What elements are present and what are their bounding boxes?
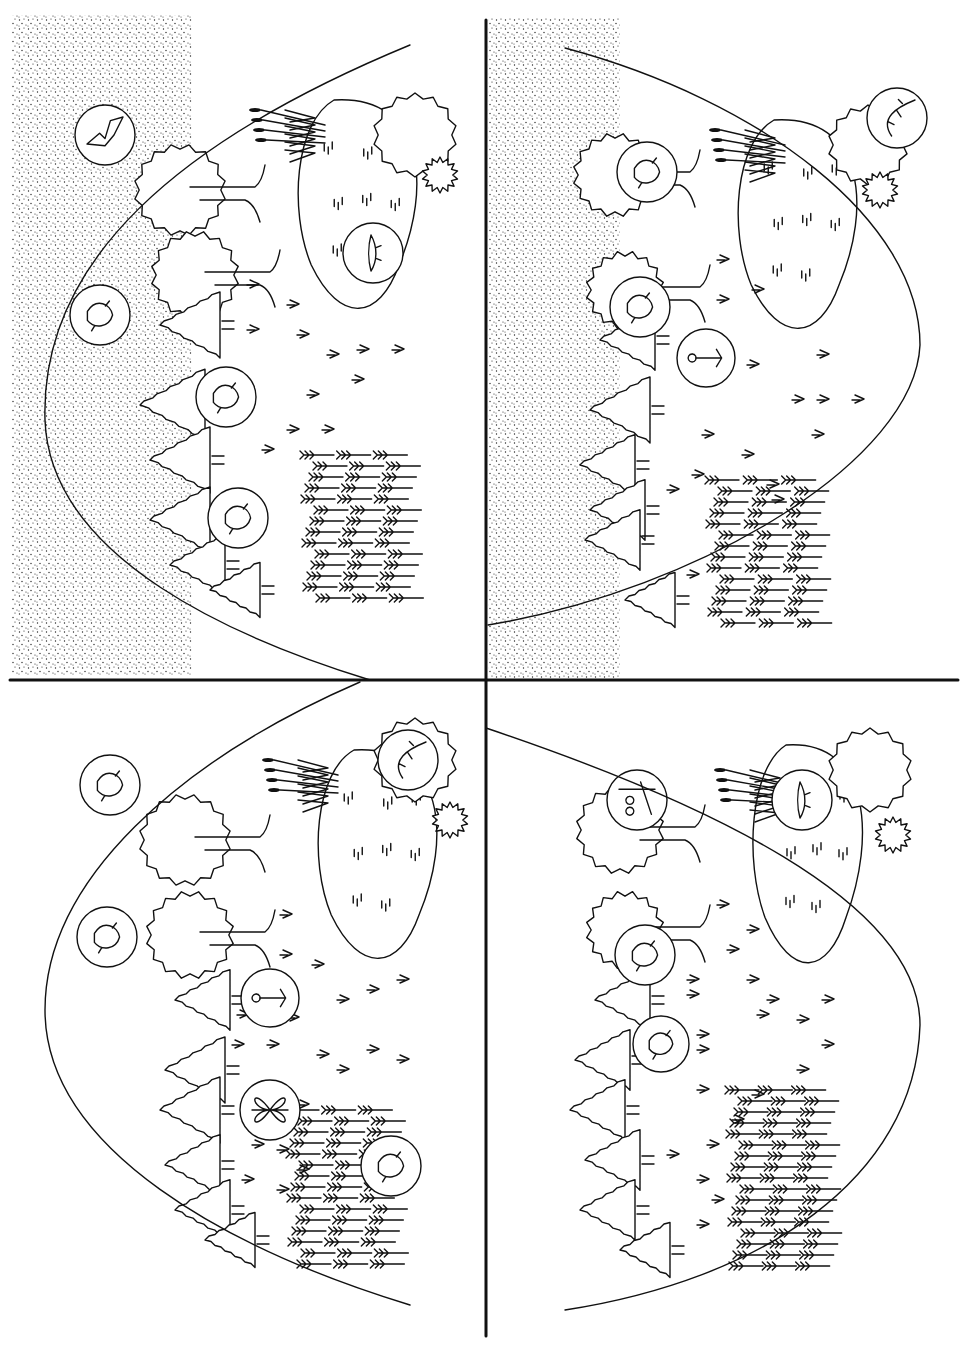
- owl-icon: [607, 770, 667, 830]
- bird-soaring-icon: [77, 907, 137, 967]
- ground-mark: [397, 1055, 409, 1063]
- ground-mark: [367, 985, 379, 993]
- ground-mark: [287, 300, 299, 308]
- bird-eagle-icon: [70, 285, 130, 345]
- ground-mark: [307, 390, 319, 398]
- ground-mark: [687, 990, 699, 998]
- ground-mark: [817, 350, 829, 358]
- ground-mark: [247, 280, 259, 288]
- fish-icon: [343, 223, 403, 283]
- ground-mark: [337, 995, 349, 1003]
- ground-mark: [747, 360, 759, 368]
- bush: [433, 802, 468, 838]
- ground-mark: [717, 295, 729, 303]
- bat-icon: [75, 105, 135, 165]
- ground-mark: [297, 330, 309, 338]
- ground-mark: [322, 425, 334, 433]
- ground-mark: [717, 900, 729, 908]
- ground-mark: [792, 395, 804, 403]
- ground-mark: [822, 1040, 834, 1048]
- deciduous-tree: [140, 795, 270, 885]
- ground-mark: [367, 1045, 379, 1053]
- ground-mark: [757, 1010, 769, 1018]
- butterfly-icon: [240, 1080, 300, 1140]
- bush: [876, 817, 911, 853]
- ground-mark: [280, 910, 292, 918]
- ground-mark: [697, 1220, 709, 1228]
- flower-icon: [677, 329, 735, 387]
- ground-mark: [702, 430, 714, 438]
- ground-mark: [767, 480, 779, 488]
- reeds: [249, 108, 325, 162]
- rodent-icon: [208, 488, 268, 548]
- ground-mark: [822, 995, 834, 1003]
- ground-mark: [667, 1150, 679, 1158]
- ground-mark: [812, 430, 824, 438]
- grass-field: [300, 451, 423, 602]
- frog-on-branch-icon: [610, 277, 670, 337]
- ground-mark: [797, 1015, 809, 1023]
- ground-mark: [667, 485, 679, 493]
- ecology-diagram: [0, 0, 968, 1351]
- ground-mark: [697, 1085, 709, 1093]
- ground-mark: [817, 395, 829, 403]
- bird-perched-icon: [615, 925, 675, 985]
- ground-mark: [767, 995, 779, 1003]
- squirrel-icon: [196, 367, 256, 427]
- ground-mark: [392, 345, 404, 353]
- conifer-tree: [585, 1130, 654, 1191]
- ground-mark: [852, 395, 864, 403]
- ground-mark: [337, 1065, 349, 1073]
- frog-icon: [617, 142, 677, 202]
- ground-mark: [797, 1065, 809, 1073]
- ground-mark: [277, 1185, 289, 1193]
- ground-mark: [262, 445, 274, 453]
- ground-mark: [280, 950, 292, 958]
- ground-mark: [697, 1045, 709, 1053]
- stipple-top-right: [488, 18, 620, 678]
- ground-mark: [317, 1050, 329, 1058]
- ground-mark: [707, 1140, 719, 1148]
- ground-mark: [327, 350, 339, 358]
- ground-mark: [687, 570, 699, 578]
- ground-mark: [287, 425, 299, 433]
- ground-mark: [247, 325, 259, 333]
- ground-mark: [712, 1195, 724, 1203]
- mouse-icon: [361, 1136, 421, 1196]
- ground-mark: [232, 1040, 244, 1048]
- ground-mark: [747, 975, 759, 983]
- deciduous-tree: [147, 892, 275, 978]
- ground-mark: [717, 255, 729, 263]
- conifer-tree: [175, 970, 244, 1031]
- fish-icon: [772, 770, 832, 830]
- ground-mark: [252, 1140, 264, 1148]
- ground-mark: [687, 975, 699, 983]
- ground-mark: [352, 375, 364, 383]
- ground-mark: [267, 1040, 279, 1048]
- grass-field: [705, 476, 832, 627]
- grass-field: [725, 1086, 842, 1270]
- ground-mark: [697, 1030, 709, 1038]
- ground-mark: [742, 450, 754, 458]
- reeds: [262, 758, 338, 812]
- ground-mark: [357, 345, 369, 353]
- ground-mark: [397, 975, 409, 983]
- bird-diving-icon: [80, 755, 140, 815]
- ground-mark: [697, 1175, 709, 1183]
- bird-chick-icon: [633, 1016, 689, 1072]
- ground-mark: [312, 960, 324, 968]
- flower-icon: [241, 969, 299, 1027]
- ground-mark: [727, 945, 739, 953]
- ground-mark: [747, 925, 759, 933]
- lizard-icon: [378, 730, 438, 790]
- conifer-tree: [625, 573, 689, 628]
- ground-mark: [242, 1175, 254, 1183]
- ground-mark: [692, 470, 704, 478]
- lizard-icon: [867, 88, 927, 148]
- deciduous-tree: [135, 145, 265, 235]
